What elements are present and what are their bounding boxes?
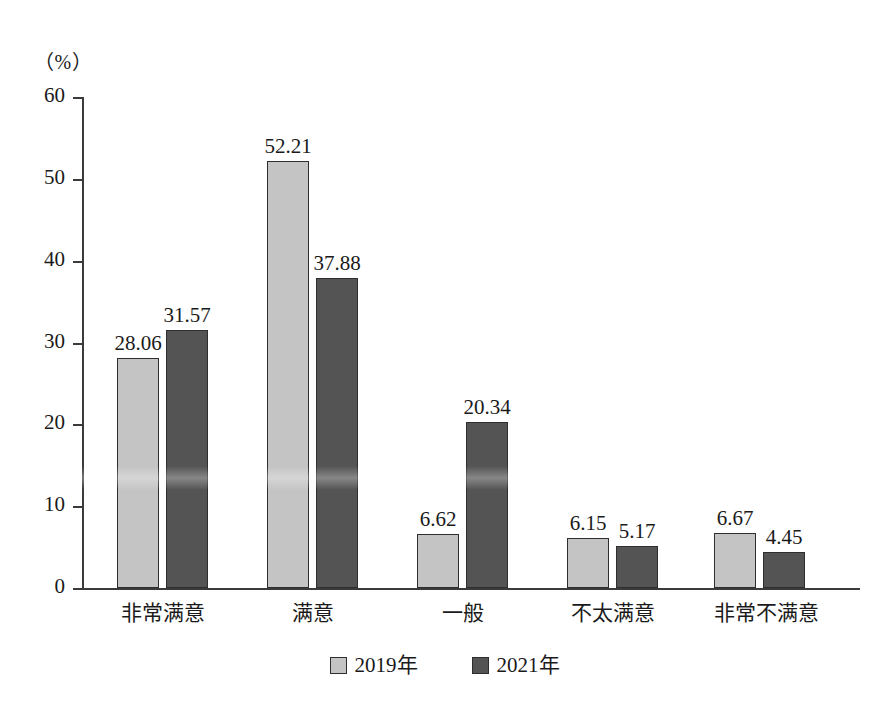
y-axis-tick-label: 30 <box>44 331 65 352</box>
bar-group: 6.6220.34 <box>417 97 508 588</box>
bar-value-label: 28.06 <box>114 332 161 354</box>
plot-area: 0102030405060 28.0631.5752.2137.886.6220… <box>82 97 860 590</box>
x-axis-label-5: 非常不满意 <box>714 601 805 625</box>
x-axis-label-4: 不太满意 <box>567 601 658 625</box>
chart-legend: 2019年2021年 <box>0 655 889 676</box>
y-axis-tick-label: 60 <box>44 85 65 106</box>
bar-value-label: 4.45 <box>766 526 803 548</box>
y-axis-tick: 30 <box>73 343 82 345</box>
y-axis-tick: 60 <box>73 97 82 99</box>
bar-2019[interactable]: 6.67 <box>714 533 756 588</box>
bar-2021[interactable]: 20.34 <box>466 422 508 588</box>
bar-value-label: 6.62 <box>420 508 457 530</box>
bar-2021[interactable]: 31.57 <box>166 330 208 588</box>
y-axis-unit-label: （%） <box>34 46 92 75</box>
bar-value-label: 6.67 <box>717 507 754 529</box>
y-axis-tick-label: 0 <box>55 576 66 597</box>
bar-2019[interactable]: 6.62 <box>417 534 459 588</box>
y-axis-line <box>82 97 84 590</box>
bar-value-label: 31.57 <box>163 304 210 326</box>
y-axis-tick: 40 <box>73 261 82 263</box>
bar-value-label: 5.17 <box>619 520 656 542</box>
legend-label: 2021年 <box>497 655 560 676</box>
bar-2019[interactable]: 28.06 <box>117 358 159 588</box>
y-axis-tick: 0 <box>73 588 82 590</box>
y-axis-tick: 10 <box>73 506 82 508</box>
y-axis-tick: 50 <box>73 179 82 181</box>
legend-label: 2019年 <box>355 655 418 676</box>
bar-value-label: 6.15 <box>570 512 607 534</box>
legend-item-2019年[interactable]: 2019年 <box>330 655 418 676</box>
bar-group: 28.0631.57 <box>117 97 208 588</box>
bar-2021[interactable]: 5.17 <box>616 546 658 588</box>
x-axis-line <box>82 588 860 590</box>
legend-item-2021年[interactable]: 2021年 <box>472 655 560 676</box>
x-axis-label-1: 非常满意 <box>117 601 208 625</box>
bar-2019[interactable]: 52.21 <box>267 161 309 588</box>
legend-swatch-icon <box>472 657 489 674</box>
y-axis-tick-label: 20 <box>44 412 65 433</box>
bar-2019[interactable]: 6.15 <box>567 538 609 588</box>
y-axis-tick: 20 <box>73 424 82 426</box>
bar-value-label: 37.88 <box>313 252 360 274</box>
bar-group: 6.155.17 <box>567 97 658 588</box>
legend-swatch-icon <box>330 657 347 674</box>
bar-chart: （%） 0102030405060 28.0631.5752.2137.886.… <box>0 0 889 725</box>
y-axis-tick-label: 50 <box>44 167 65 188</box>
y-axis-tick-label: 40 <box>44 249 65 270</box>
bar-value-label: 20.34 <box>463 396 510 418</box>
x-axis-label-2: 满意 <box>267 601 358 625</box>
x-axis-label-3: 一般 <box>417 601 508 625</box>
bar-group: 52.2137.88 <box>267 97 358 588</box>
bar-group: 6.674.45 <box>714 97 805 588</box>
bar-2021[interactable]: 37.88 <box>316 278 358 588</box>
bar-2021[interactable]: 4.45 <box>763 552 805 588</box>
bar-value-label: 52.21 <box>264 135 311 157</box>
y-axis-tick-label: 10 <box>44 494 65 515</box>
